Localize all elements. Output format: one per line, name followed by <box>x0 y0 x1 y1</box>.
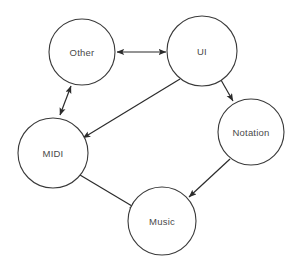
node-other-label: Other <box>70 47 95 58</box>
node-midi-label: MIDI <box>43 148 64 159</box>
node-notation[interactable]: Notation <box>218 99 284 165</box>
node-other[interactable]: Other <box>49 19 115 85</box>
edge-midi-music <box>80 175 137 209</box>
node-midi[interactable]: MIDI <box>18 118 88 188</box>
edge-ui-notation <box>221 80 233 101</box>
edge-ui-midi <box>83 79 180 138</box>
node-notation-label: Notation <box>233 127 270 138</box>
node-ui[interactable]: UI <box>167 16 237 86</box>
diagram-canvas: Other UI MIDI Notation Music <box>0 0 302 270</box>
node-music[interactable]: Music <box>128 187 196 255</box>
graph-svg: Other UI MIDI Notation Music <box>0 0 302 270</box>
edge-notation-music <box>189 159 230 197</box>
node-music-label: Music <box>149 216 175 227</box>
node-ui-label: UI <box>197 46 207 57</box>
edge-other-midi <box>60 86 71 115</box>
